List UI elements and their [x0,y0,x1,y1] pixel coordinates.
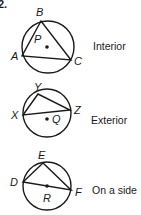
caption-interior: Interior [93,40,126,52]
vertex-label-x: X [10,109,19,121]
vertex-label-c: C [74,55,82,67]
caption-on-a-side: On a side [92,184,137,196]
problem-number: 2. [0,0,7,10]
center-label-p: P [34,33,42,45]
vertex-label-a: A [10,50,18,62]
figure-on-a-side: E D F R On a side [10,149,137,210]
figure-interior: B A C P Interior [10,6,126,73]
vertex-label-z: Z [73,104,82,116]
center-point-p [45,45,49,49]
vertex-label-e: E [38,149,46,161]
center-label-q: Q [52,113,61,125]
vertex-label-f: F [75,186,83,198]
vertex-label-y: Y [34,81,42,93]
figure-exterior: Y X Z Q Exterior [10,81,128,137]
caption-exterior: Exterior [91,114,128,126]
vertex-label-b: B [36,6,43,18]
vertex-label-d: D [10,176,18,188]
inscribed-triangle-xyz [23,94,70,115]
circle-diagram: 2. B A C P Interior Y X Z Q Exterior E D… [0,0,141,215]
center-point-q [45,117,49,121]
center-point-r [45,184,49,188]
center-label-r: R [43,192,51,204]
